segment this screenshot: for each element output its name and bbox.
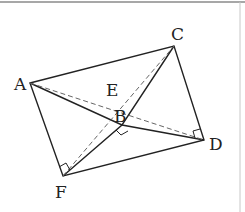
diagram-frame: A C D F B E: [0, 0, 245, 212]
label-A: A: [13, 74, 27, 94]
label-B: B: [114, 106, 127, 126]
geometry-diagram: A C D F B E: [0, 0, 245, 212]
right-angle-mark-B: [116, 130, 128, 135]
label-D: D: [209, 134, 223, 154]
label-E: E: [106, 80, 118, 100]
label-C: C: [171, 24, 184, 44]
label-F: F: [55, 182, 67, 202]
